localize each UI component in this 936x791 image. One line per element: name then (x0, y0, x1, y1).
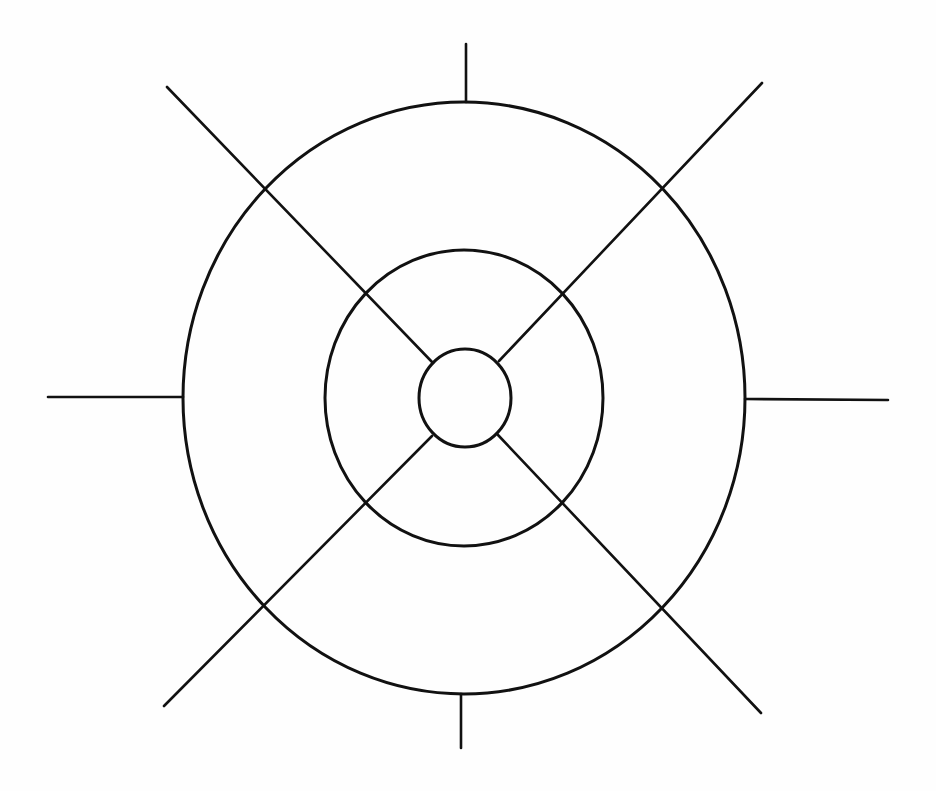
spoke-lower-left (164, 436, 432, 706)
tick-right (745, 399, 888, 400)
diagonal-spokes-group (164, 83, 762, 713)
spoke-upper-right (499, 83, 762, 361)
target-diagram (0, 0, 936, 791)
spoke-lower-right (498, 435, 761, 713)
concentric-spoke-diagram (0, 0, 936, 791)
spoke-upper-left (167, 87, 433, 363)
axis-ticks-group (48, 44, 888, 748)
